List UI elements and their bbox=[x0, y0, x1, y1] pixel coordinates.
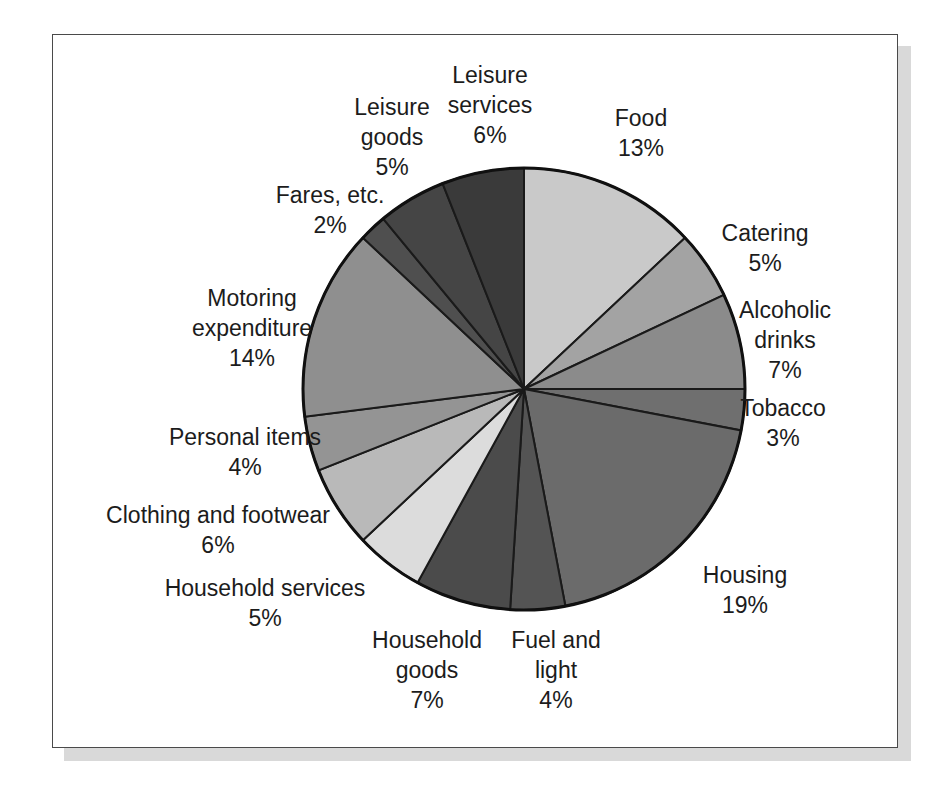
label-alcoholic-value: 7% bbox=[739, 355, 831, 385]
label-household-goods-name: Household bbox=[372, 625, 482, 655]
label-household-services-name: Household services bbox=[165, 573, 366, 603]
label-fuel-name: Fuel and bbox=[511, 625, 601, 655]
label-motoring-name: Motoring bbox=[192, 283, 312, 313]
label-personal-items: Personal items 4% bbox=[169, 422, 321, 482]
label-fuel-name2: light bbox=[511, 655, 601, 685]
label-personal-items-name: Personal items bbox=[169, 422, 321, 452]
label-clothing-value: 6% bbox=[106, 530, 330, 560]
label-motoring-expenditure: Motoring expenditure 14% bbox=[192, 283, 312, 373]
label-alcoholic-drinks: Alcoholic drinks 7% bbox=[739, 295, 831, 385]
label-leisure-goods: Leisure goods 5% bbox=[354, 92, 429, 182]
label-household-goods-value: 7% bbox=[372, 685, 482, 715]
label-fuel-value: 4% bbox=[511, 685, 601, 715]
label-fares-name: Fares, etc. bbox=[276, 180, 385, 210]
label-household-goods-name2: goods bbox=[372, 655, 482, 685]
label-clothing-footwear: Clothing and footwear 6% bbox=[106, 500, 330, 560]
label-leisure-goods-name: Leisure bbox=[354, 92, 429, 122]
label-leisure-services-name: Leisure bbox=[448, 60, 532, 90]
label-leisure-goods-value: 5% bbox=[354, 152, 429, 182]
label-alcoholic-name: Alcoholic bbox=[739, 295, 831, 325]
label-fares-value: 2% bbox=[276, 210, 385, 240]
label-housing: Housing 19% bbox=[703, 560, 787, 620]
label-catering: Catering 5% bbox=[722, 218, 809, 278]
label-housing-value: 19% bbox=[703, 590, 787, 620]
label-leisure-services: Leisure services 6% bbox=[448, 60, 532, 150]
label-tobacco-value: 3% bbox=[740, 423, 826, 453]
label-catering-name: Catering bbox=[722, 218, 809, 248]
label-housing-name: Housing bbox=[703, 560, 787, 590]
label-household-services: Household services 5% bbox=[165, 573, 366, 633]
label-fares: Fares, etc. 2% bbox=[276, 180, 385, 240]
label-tobacco-name: Tobacco bbox=[740, 393, 826, 423]
label-motoring-value: 14% bbox=[192, 343, 312, 373]
pie-chart: Leisure services 6% Leisure goods 5% Far… bbox=[0, 0, 951, 798]
label-leisure-services-value: 6% bbox=[448, 120, 532, 150]
label-household-services-value: 5% bbox=[165, 603, 366, 633]
label-household-goods: Household goods 7% bbox=[372, 625, 482, 715]
label-tobacco: Tobacco 3% bbox=[740, 393, 826, 453]
label-leisure-goods-name2: goods bbox=[354, 122, 429, 152]
label-alcoholic-name2: drinks bbox=[739, 325, 831, 355]
label-food-name: Food bbox=[615, 103, 667, 133]
label-fuel-and-light: Fuel and light 4% bbox=[511, 625, 601, 715]
label-clothing-name: Clothing and footwear bbox=[106, 500, 330, 530]
label-motoring-name2: expenditure bbox=[192, 313, 312, 343]
label-catering-value: 5% bbox=[722, 248, 809, 278]
label-leisure-services-name2: services bbox=[448, 90, 532, 120]
label-personal-items-value: 4% bbox=[169, 452, 321, 482]
label-food-value: 13% bbox=[615, 133, 667, 163]
label-food: Food 13% bbox=[615, 103, 667, 163]
